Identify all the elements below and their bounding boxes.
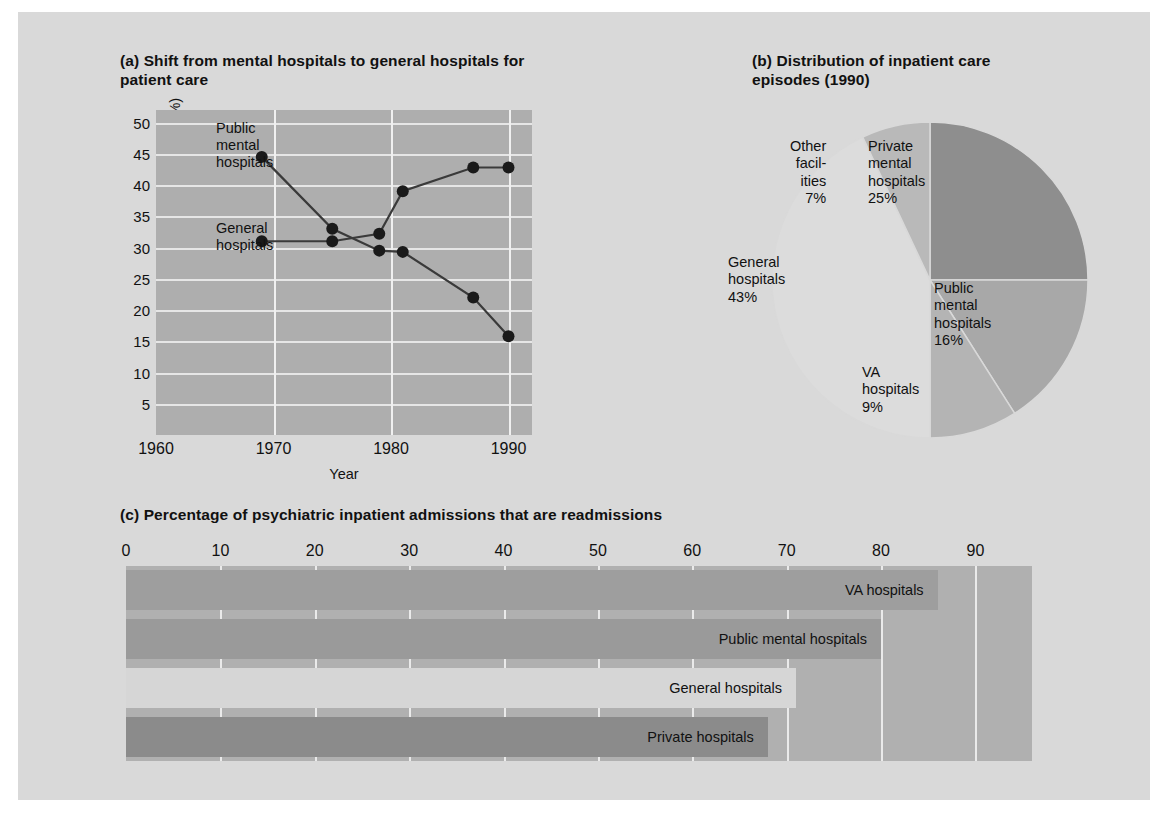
pie-label-line: hospitals: [728, 271, 785, 288]
panel-a-datapoint: [373, 245, 385, 257]
pie-label-line: hospitals: [934, 315, 991, 332]
panel-c: (c) Percentage of psychiatric inpatient …: [104, 506, 1104, 786]
pie-slice-private-mental-hospitals: [930, 122, 1088, 280]
pie-label-line: ities: [790, 173, 826, 190]
panel-c-plot-area: VA hospitalsPublic mental hospitalsGener…: [126, 566, 1032, 761]
panel-a-ytick: 50: [110, 114, 150, 131]
panel-a-datapoint: [467, 162, 479, 174]
panel-c-bar-va-hospitals: [126, 570, 938, 610]
panel-a-xtick: 1980: [373, 440, 409, 458]
pie-label-line: 16%: [934, 332, 991, 349]
pie-label-line: mental: [934, 297, 991, 314]
pie-label-line: 25%: [868, 190, 925, 207]
panel-a-datapoint: [397, 246, 409, 258]
pie-label-public-mental-hospitals: Publicmentalhospitals16%: [934, 280, 991, 350]
pie-label-general-hospitals: Generalhospitals43%: [728, 254, 785, 306]
panel-a-annotation-line: hospitals: [216, 154, 273, 171]
panel-b-tag: (b): [752, 52, 772, 69]
panel-a-datapoint: [326, 235, 338, 247]
panel-c-xtick: 10: [211, 542, 229, 560]
panel-c-xtick: 70: [778, 542, 796, 560]
panel-a-ytick: 25: [110, 270, 150, 287]
pie-label-va-hospitals: VAhospitals9%: [862, 364, 919, 416]
panel-c-bar-label: VA hospitals: [845, 582, 924, 598]
panel-c-bar-label: Public mental hospitals: [719, 631, 867, 647]
panel-a-datapoint: [503, 162, 515, 174]
panel-c-xtick: 50: [589, 542, 607, 560]
panel-a: (a) Shift from mental hospitals to gener…: [104, 42, 604, 492]
pie-label-line: 9%: [862, 399, 919, 416]
panel-b-title-text: Distribution of inpatient care episodes …: [752, 52, 991, 88]
pie-label-line: mental: [868, 155, 925, 172]
pie-label-other-facilities: Otherfacil-ities7%: [790, 138, 826, 208]
panel-c-xtick: 90: [966, 542, 984, 560]
panel-a-line-general-hospitals: [262, 168, 509, 242]
figure-page: (a) Shift from mental hospitals to gener…: [0, 0, 1166, 817]
panel-a-annotation-general: Generalhospitals: [216, 220, 273, 254]
panel-a-line-public-mental-hospitals: [262, 157, 509, 336]
pie-label-line: General: [728, 254, 785, 271]
panel-b: (b) Distribution of inpatient care episo…: [744, 42, 1134, 492]
pie-label-line: Public: [934, 280, 991, 297]
panel-a-yaxis: 5101520253035404550: [104, 110, 150, 435]
figure-canvas: (a) Shift from mental hospitals to gener…: [18, 12, 1150, 800]
pie-label-line: hospitals: [868, 173, 925, 190]
panel-c-xtick: 80: [872, 542, 890, 560]
pie-label-line: Other: [790, 138, 826, 155]
panel-c-gridline: [975, 566, 977, 761]
panel-a-ytick: 35: [110, 208, 150, 225]
panel-a-datapoint: [373, 228, 385, 240]
panel-a-datapoint: [326, 223, 338, 235]
panel-c-bar-label: Private hospitals: [647, 729, 753, 745]
panel-a-annotation-line: hospitals: [216, 237, 273, 254]
panel-a-title: (a) Shift from mental hospitals to gener…: [120, 52, 540, 90]
panel-a-datapoint: [467, 292, 479, 304]
panel-a-ytick: 40: [110, 177, 150, 194]
panel-c-title-text: Percentage of psychiatric inpatient admi…: [144, 506, 662, 523]
panel-b-title: (b) Distribution of inpatient care episo…: [752, 52, 1052, 90]
panel-a-datapoint: [397, 185, 409, 197]
panel-a-series-layer: [156, 110, 532, 435]
pie-label-private-mental-hospitals: Privatementalhospitals25%: [868, 138, 925, 208]
panel-a-ytick: 45: [110, 145, 150, 162]
pie-label-line: 7%: [790, 190, 826, 207]
panel-a-xlabel: Year: [156, 466, 532, 482]
panel-a-ytick: 5: [110, 395, 150, 412]
panel-a-annotation-line: mental: [216, 137, 273, 154]
panel-c-xtick: 20: [306, 542, 324, 560]
panel-c-xtick: 60: [683, 542, 701, 560]
panel-a-ytick: 30: [110, 239, 150, 256]
panel-a-ytick: 15: [110, 333, 150, 350]
panel-c-xtick: 40: [495, 542, 513, 560]
pie-label-line: facil-: [790, 155, 826, 172]
panel-c-bar-label: General hospitals: [669, 680, 782, 696]
panel-c-tag: (c): [120, 506, 139, 523]
panel-c-xtick: 0: [122, 542, 131, 560]
panel-a-xtick: 1960: [138, 440, 174, 458]
panel-a-annotation-line: General: [216, 220, 273, 237]
pie-label-line: 43%: [728, 289, 785, 306]
panel-c-title: (c) Percentage of psychiatric inpatient …: [120, 506, 740, 525]
panel-a-tag: (a): [120, 52, 139, 69]
panel-a-annotation-line: Public: [216, 120, 273, 137]
pie-label-line: VA: [862, 364, 919, 381]
panel-a-ytick: 10: [110, 364, 150, 381]
pie-label-line: hospitals: [862, 381, 919, 398]
panel-a-datapoint: [503, 330, 515, 342]
panel-a-xtick: 1970: [256, 440, 292, 458]
panel-a-ytick: 20: [110, 302, 150, 319]
panel-a-xtick: 1990: [491, 440, 527, 458]
panel-a-annotation-public: Publicmentalhospitals: [216, 120, 273, 171]
pie-label-line: Private: [868, 138, 925, 155]
panel-c-xtick: 30: [400, 542, 418, 560]
